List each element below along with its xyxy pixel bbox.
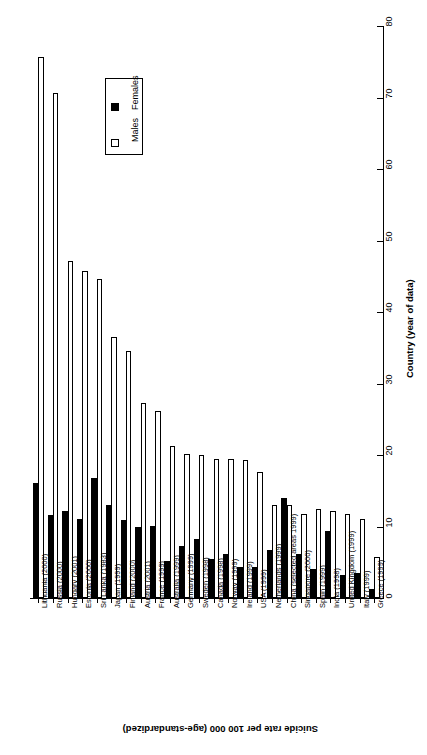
- legend-label-females: Females: [131, 75, 140, 110]
- value-tick-label: 60: [385, 159, 394, 169]
- category-label: Russia (2000): [56, 561, 64, 608]
- category-tick: [97, 598, 98, 603]
- category-tick: [141, 598, 142, 603]
- category-label: Netherlands (1999): [275, 544, 283, 608]
- category-label: Ireland (1999): [246, 561, 254, 608]
- bar-males: [82, 271, 87, 598]
- suicide-rate-bar-chart: 01020304050607080 Lithuania (2000)Russia…: [0, 0, 427, 755]
- value-tick: [377, 26, 383, 27]
- category-tick: [360, 598, 361, 603]
- value-tick: [377, 169, 383, 170]
- value-tick: [377, 384, 383, 385]
- category-tick: [170, 598, 171, 603]
- bar-males: [68, 261, 73, 598]
- value-tick-label: 30: [385, 374, 394, 384]
- category-label: Finland (2000): [129, 560, 137, 608]
- value-axis-title: Country (year of data): [404, 279, 415, 378]
- category-label: Singapore (2000): [304, 550, 312, 608]
- category-tick: [53, 598, 54, 603]
- value-tick-label: 40: [385, 302, 394, 312]
- value-tick-label: 20: [385, 445, 394, 455]
- value-tick: [377, 312, 383, 313]
- value-tick: [377, 98, 383, 99]
- category-label: Lithuania (2000): [41, 554, 49, 608]
- value-tick-label: 50: [385, 231, 394, 241]
- category-label: Canada (1998): [217, 558, 225, 608]
- category-tick: [243, 598, 244, 603]
- category-tick: [214, 598, 215, 603]
- category-label: Spain (1999): [319, 565, 327, 608]
- value-tick-label: 10: [385, 517, 394, 527]
- category-label: Sweden (1998): [202, 557, 210, 608]
- category-tick: [126, 598, 127, 603]
- value-tick-label: 0: [385, 593, 394, 598]
- plot-area: 01020304050607080 Lithuania (2000)Russia…: [0, 0, 427, 755]
- value-tick-label: 80: [385, 16, 394, 26]
- value-tick: [377, 455, 383, 456]
- category-label: Japan (1999): [114, 564, 122, 608]
- value-tick: [377, 241, 383, 242]
- category-label: India (1998): [333, 568, 341, 608]
- category-tick: [272, 598, 273, 603]
- category-label: United Kingdom (1999): [348, 531, 356, 608]
- category-tick: [287, 598, 288, 603]
- chart-legend: Females Males: [105, 78, 143, 155]
- value-axis-line: [383, 26, 384, 599]
- category-tick: [316, 598, 317, 603]
- category-label: Greece (1999): [377, 560, 385, 608]
- bar-males: [53, 93, 58, 598]
- category-label: Norway (1999): [231, 559, 239, 608]
- value-tick: [377, 527, 383, 528]
- bar-males: [97, 279, 102, 598]
- category-label: Sri Lanka (1983): [100, 553, 108, 608]
- value-tick-label: 70: [385, 88, 394, 98]
- category-tick: [68, 598, 69, 603]
- category-label: Australia (1999): [173, 555, 181, 608]
- category-label: Hungary (2001): [71, 556, 79, 608]
- bar-males: [38, 57, 43, 598]
- category-tick: [345, 598, 346, 603]
- category-label: China (selected areas 1999): [290, 514, 298, 608]
- bar-males: [111, 337, 116, 598]
- category-label: Germany (1999): [187, 553, 195, 608]
- category-label: France (1999): [158, 561, 166, 608]
- legend-swatch-males-icon: [111, 139, 119, 147]
- category-label: Austria (2001): [144, 561, 152, 608]
- category-axis-title: Suicide rate per 100 000 (age-standardiz…: [123, 724, 318, 735]
- legend-swatch-females-icon: [111, 103, 119, 111]
- legend-item-females: Females: [106, 79, 142, 115]
- category-label: Italy (1999): [363, 570, 371, 608]
- legend-item-males: Males: [106, 115, 142, 151]
- legend-label-males: Males: [131, 118, 140, 142]
- category-label: Estonia (2000): [85, 559, 93, 608]
- category-label: USA (1999): [260, 569, 268, 608]
- category-tick: [199, 598, 200, 603]
